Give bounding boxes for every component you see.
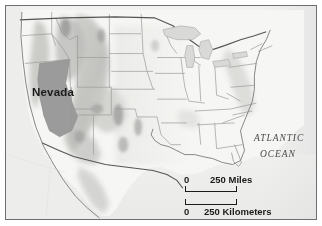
scale-km-value: 250 Kilometers xyxy=(204,206,272,217)
basin-patch-7 xyxy=(75,131,85,143)
scale-miles-value: 250 Miles xyxy=(210,174,252,185)
basin-patch-6 xyxy=(118,137,128,153)
lake-michigan xyxy=(185,46,195,68)
scale-bar-kilometers: 0250 Kilometers xyxy=(184,199,304,217)
scale-km-line xyxy=(185,204,237,205)
scale-miles-tick-right xyxy=(236,186,237,192)
scale-km-zero: 0 xyxy=(184,206,204,217)
scale-miles-bar xyxy=(185,186,237,192)
scale-miles-text: 0250 Miles xyxy=(184,174,304,185)
scale-km-tick-right xyxy=(236,199,237,205)
basin-patch-3 xyxy=(113,104,123,126)
scale-km-text: 0250 Kilometers xyxy=(184,206,304,217)
scale-miles-line xyxy=(185,191,237,192)
map-frame: Nevada ATLANTIC OCEAN 0250 Miles xyxy=(5,5,317,220)
scale-miles-zero: 0 xyxy=(184,174,210,185)
basin-patch-4 xyxy=(134,118,142,136)
scale-km-bar xyxy=(185,199,237,205)
scale-bar-group: 0250 Miles 0250 Kilometers xyxy=(184,174,304,217)
basin-patch-1 xyxy=(61,19,71,37)
basin-patch-2 xyxy=(97,29,105,43)
map-figure: Nevada ATLANTIC OCEAN 0250 Miles xyxy=(0,0,322,226)
basin-patch-8 xyxy=(151,40,159,52)
scale-bar-miles: 0250 Miles xyxy=(184,174,304,192)
